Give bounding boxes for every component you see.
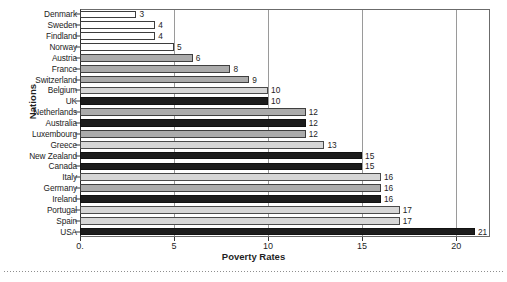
bar-value-findland: 4	[158, 32, 163, 41]
category-label-netherlands: Netherlands	[33, 108, 77, 117]
bar-australia	[80, 119, 306, 127]
bar-row: Spain17	[0, 215, 507, 226]
bar-row: France8	[0, 63, 507, 74]
bar-row: Germany16	[0, 183, 507, 194]
x-tick-label-10: 10	[263, 241, 273, 251]
bar-value-sweden: 4	[158, 21, 163, 30]
category-label-france: France	[52, 64, 77, 73]
bar-canada	[80, 163, 362, 171]
bar-value-usa: 21	[478, 227, 487, 236]
bar-value-italy: 16	[384, 173, 393, 182]
bar-value-portugal: 17	[403, 205, 412, 214]
bar-italy	[80, 173, 381, 181]
bar-value-france: 8	[233, 64, 238, 73]
x-tick-label-15: 15	[357, 241, 367, 251]
bar-row: Belgium10	[0, 85, 507, 96]
bar-value-denmark: 3	[139, 10, 144, 19]
x-tick-label-5: 5	[172, 241, 177, 251]
category-label-germany: Germany	[44, 184, 77, 193]
category-label-switzerland: Switzerland	[35, 75, 77, 84]
bar-row: Austria6	[0, 52, 507, 63]
bar-value-ireland: 16	[384, 194, 393, 203]
x-tick-label-20: 20	[451, 241, 461, 251]
bar-value-canada: 15	[365, 162, 374, 171]
bar-row: Findland4	[0, 31, 507, 42]
category-label-denmark: Denmark	[44, 10, 77, 19]
category-label-luxembourg: Luxembourg	[32, 129, 77, 138]
footer-divider	[4, 271, 503, 272]
bar-value-germany: 16	[384, 184, 393, 193]
category-label-austria: Austria	[52, 53, 77, 62]
category-label-canada: Canada	[49, 162, 77, 171]
bar-row: Sweden4	[0, 20, 507, 31]
bar-row: Luxembourg12	[0, 128, 507, 139]
bar-value-greece: 13	[327, 140, 336, 149]
bar-value-netherlands: 12	[309, 108, 318, 117]
bar-row: Ireland16	[0, 194, 507, 205]
category-label-ireland: Ireland	[52, 194, 77, 203]
bar-switzerland	[80, 76, 249, 84]
x-axis-title: Poverty Rates	[0, 251, 507, 262]
bar-value-austria: 6	[196, 53, 201, 62]
bar-row: Australia12	[0, 118, 507, 129]
bar-findland	[80, 32, 155, 40]
bar-ireland	[80, 195, 381, 203]
bar-row: Denmark3	[0, 9, 507, 20]
bar-germany	[80, 184, 381, 192]
bar-spain	[80, 217, 400, 225]
category-label-greece: Greece	[50, 140, 77, 149]
bar-portugal	[80, 206, 400, 214]
poverty-rates-bar-chart: Nations Denmark3Sweden4Findland4Norway5A…	[0, 0, 507, 282]
bar-value-belgium: 10	[271, 86, 280, 95]
bar-value-uk: 10	[271, 97, 280, 106]
bar-denmark	[80, 11, 136, 19]
bar-rows: Denmark3Sweden4Findland4Norway5Austria6F…	[0, 9, 507, 237]
bar-austria	[80, 54, 193, 62]
bar-row: USA21	[0, 226, 507, 237]
bar-row: New Zealand15	[0, 150, 507, 161]
bar-value-australia: 12	[309, 118, 318, 127]
category-label-new-zealand: New Zealand	[29, 151, 77, 160]
bar-value-norway: 5	[177, 42, 182, 51]
bar-value-luxembourg: 12	[309, 129, 318, 138]
category-label-portugal: Portugal	[47, 205, 77, 214]
bar-value-new-zealand: 15	[365, 151, 374, 160]
bar-netherlands	[80, 108, 306, 116]
bar-row: Canada15	[0, 161, 507, 172]
bar-row: UK10	[0, 96, 507, 107]
bar-row: Italy16	[0, 172, 507, 183]
category-label-spain: Spain	[56, 216, 77, 225]
bar-usa	[80, 228, 475, 236]
bar-sweden	[80, 21, 155, 29]
bar-row: Norway5	[0, 42, 507, 53]
bar-value-switzerland: 9	[252, 75, 257, 84]
bar-uk	[80, 97, 268, 105]
x-tick-label-0: 0.	[76, 241, 84, 251]
bar-row: Greece13	[0, 139, 507, 150]
category-label-findland: Findland	[46, 32, 77, 41]
bar-belgium	[80, 87, 268, 95]
bar-row: Portugal17	[0, 204, 507, 215]
bar-value-spain: 17	[403, 216, 412, 225]
category-label-australia: Australia	[46, 118, 77, 127]
bar-greece	[80, 141, 324, 149]
bar-row: Netherlands12	[0, 107, 507, 118]
category-label-belgium: Belgium	[48, 86, 77, 95]
bar-new-zealand	[80, 152, 362, 160]
bar-norway	[80, 43, 174, 51]
category-label-sweden: Sweden	[48, 21, 77, 30]
category-label-norway: Norway	[49, 42, 77, 51]
bar-luxembourg	[80, 130, 306, 138]
bar-france	[80, 65, 230, 73]
bar-row: Switzerland9	[0, 74, 507, 85]
